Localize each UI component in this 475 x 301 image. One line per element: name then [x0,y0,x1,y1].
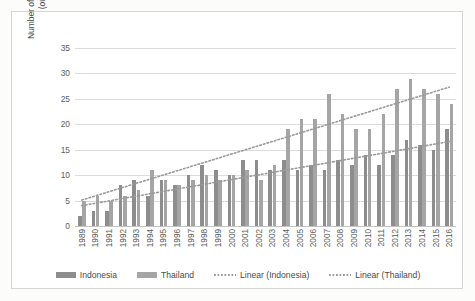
x-tick: 1990 [89,228,103,274]
x-tick: 2002 [252,228,266,274]
bar-indonesia [241,160,245,226]
bar-indonesia [105,211,109,226]
bar-thailand [82,201,86,226]
x-tick-label: 1992 [118,229,127,247]
x-tick: 1999 [211,228,225,274]
legend-item-indonesia-trend[interactable]: Linear (Indonesia) [214,270,309,280]
x-tick: 1993 [129,228,143,274]
bar-thailand [123,196,127,227]
year-bar-group [75,48,89,226]
x-tick-label: 2005 [295,229,304,247]
bar-thailand [205,175,209,226]
bar-indonesia [391,155,395,226]
x-tick-label: 1998 [200,229,209,247]
x-tick-label: 1993 [132,229,141,247]
legend-swatch-icon [56,272,76,278]
x-tick: 2008 [334,228,348,274]
legend-label: Linear (Thailand) [355,270,420,280]
bar-thailand [382,114,386,226]
bar-indonesia [405,140,409,226]
bar-indonesia [173,185,177,226]
legend-swatch-icon [137,272,157,278]
bar-thailand [137,190,141,226]
y-tick-label: 5 [65,196,70,206]
x-tick: 1996 [170,228,184,274]
bar-thailand [436,94,440,226]
year-bar-group [306,48,320,226]
x-tick-label: 2011 [377,229,386,247]
y-axis-tick-labels: 05101520253035 [48,48,70,226]
legend-label: Linear (Indonesia) [240,270,309,280]
x-tick-label: 2016 [445,229,454,247]
x-axis-tick-labels: 1989199019911992199319941995199619971998… [75,228,456,274]
year-bar-group [238,48,252,226]
x-tick: 2010 [361,228,375,274]
bar-thailand [395,89,399,226]
x-tick: 2016 [442,228,456,274]
bar-thailand [422,89,426,226]
bar-series-container [75,48,456,226]
legend-item-thailand[interactable]: Thailand [137,270,194,280]
bar-thailand [327,94,331,226]
x-tick-label: 1999 [213,229,222,247]
bar-indonesia [364,155,368,226]
x-tick-label: 2003 [268,229,277,247]
legend-item-thailand-trend[interactable]: Linear (Thailand) [329,270,420,280]
bar-thailand [341,114,345,226]
y-tick-label: 25 [61,94,70,104]
x-tick-label: 2008 [336,229,345,247]
bar-thailand [300,119,304,226]
bar-thailand [218,180,222,226]
y-tick-label: 0 [65,221,70,231]
y-tick-label: 10 [61,170,70,180]
year-bar-group [402,48,416,226]
legend-label: Indonesia [80,270,117,280]
bar-indonesia [309,165,313,226]
year-bar-group [170,48,184,226]
bar-thailand [286,129,290,226]
year-bar-group [388,48,402,226]
x-tick: 2015 [429,228,443,274]
x-tick-label: 1990 [91,229,100,247]
y-axis-title: Number of items whose RCA|>1 (out of 57 … [26,0,48,54]
chart-frame: Number of items whose RCA|>1 (out of 57 … [11,11,463,289]
year-bar-group [252,48,266,226]
bar-thailand [273,165,277,226]
y-tick-label: 30 [61,68,70,78]
x-tick: 2007 [320,228,334,274]
bar-indonesia [200,165,204,226]
bar-indonesia [350,165,354,226]
x-tick-label: 1994 [145,229,154,247]
year-bar-group [102,48,116,226]
scanned-page: Number of items whose RCA|>1 (out of 57 … [0,0,475,301]
x-tick-label: 1996 [173,229,182,247]
legend-item-indonesia[interactable]: Indonesia [56,270,117,280]
bar-thailand [164,180,168,226]
bar-indonesia [132,180,136,226]
bar-thailand [354,129,358,226]
year-bar-group [361,48,375,226]
chart-legend: IndonesiaThailandLinear (Indonesia)Linea… [12,270,464,280]
year-bar-group [225,48,239,226]
bar-indonesia [160,180,164,226]
gridline [75,226,456,227]
bar-thailand [191,180,195,226]
bar-indonesia [336,160,340,226]
bar-thailand [245,170,249,226]
x-tick: 1997 [184,228,198,274]
x-tick: 2009 [347,228,361,274]
x-tick-label: 2007 [322,229,331,247]
x-tick: 2005 [293,228,307,274]
x-tick: 1994 [143,228,157,274]
bar-indonesia [228,175,232,226]
legend-dotted-line-icon [329,274,351,276]
bar-thailand [450,104,454,226]
bar-indonesia [282,160,286,226]
x-tick-label: 2009 [349,229,358,247]
x-tick-label: 1989 [77,229,86,247]
x-tick: 2006 [306,228,320,274]
year-bar-group [293,48,307,226]
x-tick-label: 1991 [105,229,114,247]
bar-indonesia [255,160,259,226]
year-bar-group [129,48,143,226]
